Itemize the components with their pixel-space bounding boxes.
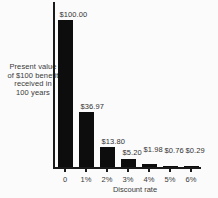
x-axis-tick: [148, 167, 150, 172]
x-tick-label: 0: [55, 175, 75, 184]
x-tick-label: 4%: [139, 175, 159, 184]
bar-value-label: $36.97: [81, 102, 105, 111]
bar-group: $13.80: [100, 137, 115, 167]
bar-group: $5.20: [121, 148, 136, 167]
bar-value-label: $13.80: [102, 137, 126, 146]
plot-area: $100.00 $36.97 $13.80 $5.20 $1.98 $0.76 …: [53, 2, 203, 169]
bar-group: $36.97: [79, 102, 94, 167]
bar-value-label: $0.29: [186, 146, 205, 155]
x-axis-tick: [169, 167, 171, 172]
y-axis-line: [53, 2, 55, 169]
x-tick-label: 6%: [181, 175, 201, 184]
bar-group: $0.76: [163, 146, 178, 167]
x-axis-tick: [106, 167, 108, 172]
chart-figure: Present value of $100 benefit received i…: [0, 0, 218, 198]
bar: [58, 20, 73, 168]
bar-group: $1.98: [142, 145, 157, 167]
x-tick-label: 3%: [118, 175, 138, 184]
bar-group: $0.29: [184, 146, 199, 167]
bar: [121, 159, 136, 167]
x-tick-label: 2%: [97, 175, 117, 184]
x-axis-tick: [64, 167, 66, 172]
x-axis-title: Discount rate: [100, 185, 170, 194]
bar-value-label: $100.00: [60, 10, 88, 19]
x-axis-tick: [190, 167, 192, 172]
bar-group: $100.00: [58, 10, 73, 168]
bar-value-label: $5.20: [123, 148, 142, 157]
x-tick-label: 5%: [160, 175, 180, 184]
bar-value-label: $0.76: [165, 146, 184, 155]
x-tick-label: 1%: [76, 175, 96, 184]
bar: [100, 147, 115, 167]
bar-value-label: $1.98: [144, 145, 163, 154]
x-axis-tick: [85, 167, 87, 172]
x-axis-tick: [127, 167, 129, 172]
bar: [79, 112, 94, 167]
